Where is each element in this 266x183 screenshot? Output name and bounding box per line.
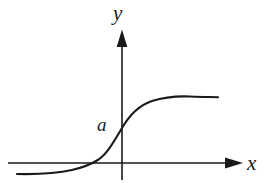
x-axis-arrowhead-icon [225,157,243,168]
sigmoid-graph-svg [0,0,266,183]
x-axis-label: x [247,153,256,174]
y-axis-arrowhead-icon [117,30,128,48]
y-intercept-label: a [97,115,107,134]
y-axis-label: y [113,3,122,24]
figure-canvas: y x a [0,0,266,183]
